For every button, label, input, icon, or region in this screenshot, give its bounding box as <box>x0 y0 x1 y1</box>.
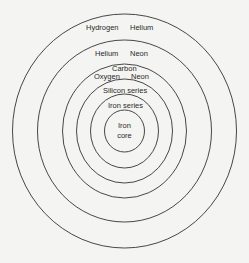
label-silicon-series: Silicon series <box>103 86 147 95</box>
label-hydrogen: Hydrogen <box>86 23 119 32</box>
label-helium-2: Helium <box>95 49 118 58</box>
label-oxygen: Oxygen <box>94 72 120 81</box>
label-iron: Iron <box>118 121 131 130</box>
label-core: core <box>117 131 132 140</box>
shell-diagram: Hydrogen Helium Helium Neon Carbon Oxyge… <box>0 0 249 263</box>
label-neon-2: Neon <box>130 49 148 58</box>
label-helium-outer: Helium <box>130 23 153 32</box>
label-iron-series: Iron series <box>108 101 143 110</box>
label-neon-3: Neon <box>131 72 149 81</box>
